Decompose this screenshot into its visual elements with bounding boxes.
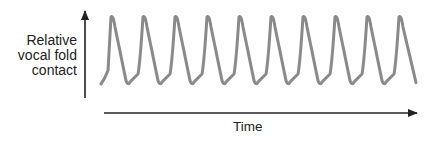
x-axis-label: Time [233, 119, 263, 134]
y-axis-label-line: contact [0, 63, 77, 78]
y-axis-label: Relative vocal fold contact [0, 33, 77, 78]
y-axis-label-line: vocal fold [0, 48, 77, 63]
contact-waveform-line [101, 16, 416, 84]
y-axis-label-line: Relative [0, 33, 77, 48]
